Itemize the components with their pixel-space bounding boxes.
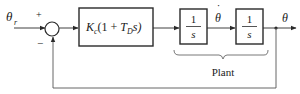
input-subscript: r: [14, 18, 18, 27]
theta-dot-accent: ˙: [217, 2, 221, 16]
plant-brace: [174, 50, 268, 59]
integrator-1-numerator: 1: [191, 13, 197, 25]
input-symbol: θ: [6, 9, 13, 24]
input-label: θ r: [6, 9, 18, 27]
feedback-path: [53, 28, 276, 88]
integrator-1-denominator: s: [191, 28, 195, 40]
summing-junction: [45, 22, 59, 36]
integrator-2-numerator: 1: [247, 13, 253, 25]
block-diagram: θ r + − Kc(1 + TDs) 1 s θ ˙ 1 s θ Plant: [0, 0, 300, 94]
controller-transfer-function: Kc(1 + TDs): [85, 20, 141, 36]
plus-sign: +: [36, 9, 42, 20]
output-symbol: θ: [282, 11, 288, 25]
minus-sign: −: [37, 37, 43, 49]
integrator-2-denominator: s: [247, 28, 251, 40]
plant-label: Plant: [212, 66, 235, 78]
